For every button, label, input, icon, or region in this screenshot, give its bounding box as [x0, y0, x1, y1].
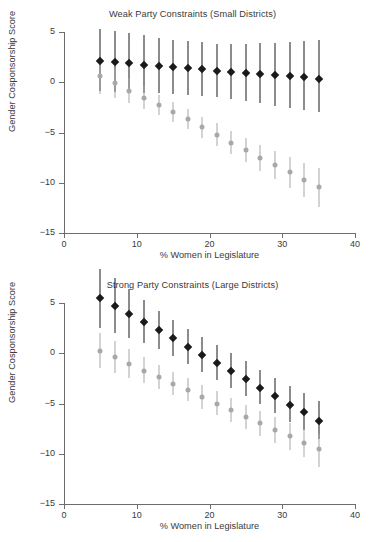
- data-point: [242, 375, 250, 383]
- data-point: [111, 301, 119, 309]
- panel-title: Weak Party Constraints (Small Districts): [0, 9, 385, 19]
- y-tick-label: 5: [50, 26, 55, 36]
- x-tick-label: 30: [277, 510, 287, 520]
- data-point: [98, 348, 103, 353]
- data-point: [258, 155, 263, 160]
- figure: Weak Party Constraints (Small Districts)…: [0, 0, 385, 542]
- data-point: [96, 294, 104, 302]
- x-tick-label: 20: [204, 510, 214, 520]
- data-point: [200, 394, 205, 399]
- y-axis-line: [64, 303, 65, 504]
- data-point: [183, 343, 191, 351]
- data-point: [125, 310, 133, 318]
- x-tick-label: 0: [61, 239, 66, 249]
- x-tick-label: 10: [132, 239, 142, 249]
- x-tick-label: 10: [132, 510, 142, 520]
- y-tick: −5: [59, 133, 64, 134]
- data-point: [300, 73, 308, 81]
- data-point: [285, 72, 293, 80]
- data-point: [213, 359, 221, 367]
- y-tick-label: 0: [50, 347, 55, 357]
- data-point: [272, 162, 277, 167]
- y-tick: 0: [59, 353, 64, 354]
- data-point: [258, 421, 263, 426]
- data-point: [227, 67, 235, 75]
- data-point: [243, 414, 248, 419]
- data-point: [140, 60, 148, 68]
- data-point: [127, 362, 132, 367]
- y-tick-label: −10: [40, 177, 55, 187]
- data-point: [169, 334, 177, 342]
- data-point: [242, 68, 250, 76]
- data-point: [271, 392, 279, 400]
- data-point: [185, 387, 190, 392]
- chart-panel-strong-party-constraints: Strong Party Constraints (Large District…: [0, 271, 385, 542]
- data-point: [156, 103, 161, 108]
- data-point: [287, 434, 292, 439]
- data-point: [98, 74, 103, 79]
- data-point: [142, 95, 147, 100]
- y-tick-label: −15: [40, 498, 55, 508]
- x-tick-label: 30: [277, 239, 287, 249]
- x-tick: [210, 233, 211, 238]
- data-point: [156, 375, 161, 380]
- data-point: [112, 355, 117, 360]
- data-point: [302, 440, 307, 445]
- data-point: [302, 177, 307, 182]
- data-point: [229, 408, 234, 413]
- data-point: [229, 140, 234, 145]
- data-point: [287, 169, 292, 174]
- data-point: [214, 132, 219, 137]
- data-point: [316, 447, 321, 452]
- data-point: [112, 81, 117, 86]
- y-tick: −10: [59, 454, 64, 455]
- y-axis-label: Gender Cosponsorship Score: [7, 120, 17, 132]
- x-axis-label: % Women in Legislature: [64, 521, 355, 531]
- data-point: [314, 74, 322, 82]
- x-tick: [282, 504, 283, 509]
- data-point: [185, 117, 190, 122]
- data-point: [227, 367, 235, 375]
- data-point: [256, 384, 264, 392]
- x-tick-label: 40: [350, 510, 360, 520]
- data-point: [243, 147, 248, 152]
- data-point: [183, 64, 191, 72]
- x-tick: [210, 504, 211, 509]
- y-tick: −10: [59, 183, 64, 184]
- plot-area: 50−5−10−15010203040: [64, 303, 355, 504]
- y-axis-line: [64, 32, 65, 233]
- data-point: [171, 110, 176, 115]
- data-point: [272, 427, 277, 432]
- data-point: [169, 63, 177, 71]
- x-axis-label: % Women in Legislature: [64, 250, 355, 260]
- x-tick-label: 0: [61, 510, 66, 520]
- data-point: [198, 351, 206, 359]
- y-tick-label: −10: [40, 448, 55, 458]
- x-tick-label: 40: [350, 239, 360, 249]
- y-tick-label: −15: [40, 227, 55, 237]
- data-point: [142, 368, 147, 373]
- data-point: [316, 184, 321, 189]
- data-point: [198, 65, 206, 73]
- y-axis-label: Gender Cosponsorship Score: [7, 391, 17, 403]
- y-tick-label: −5: [45, 398, 55, 408]
- x-tick: [355, 233, 356, 238]
- x-tick: [137, 233, 138, 238]
- y-tick: −5: [59, 404, 64, 405]
- data-point: [171, 381, 176, 386]
- x-tick: [64, 233, 65, 238]
- x-tick: [282, 233, 283, 238]
- y-tick: 5: [59, 303, 64, 304]
- x-tick: [355, 504, 356, 509]
- data-point: [213, 66, 221, 74]
- data-point: [154, 326, 162, 334]
- data-point: [111, 58, 119, 66]
- data-point: [285, 400, 293, 408]
- y-tick: 0: [59, 82, 64, 83]
- y-tick-label: 5: [50, 297, 55, 307]
- y-tick-label: 0: [50, 76, 55, 86]
- data-point: [271, 71, 279, 79]
- data-point: [256, 69, 264, 77]
- data-point: [125, 59, 133, 67]
- x-tick: [64, 504, 65, 509]
